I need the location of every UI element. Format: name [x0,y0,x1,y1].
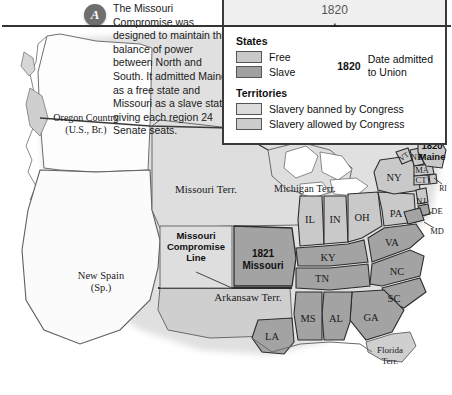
state-al [322,292,352,340]
legend-header: 1820 ★ [222,0,447,27]
legend-row-banned: Slavery banned by Congress [236,103,435,115]
legend-swatch-slave [236,66,262,78]
legend-date-key: 1820 Date admitted to Union [337,53,433,78]
leader-md [424,222,434,228]
legend-label-allowed: Slavery allowed by Congress [269,118,404,130]
state-il [298,196,324,246]
state-ct [414,175,429,185]
state-nj [416,188,428,204]
map-legend: 1820 ★ States Free Slave Territories Sla… [222,0,447,145]
legend-states-heading: States [236,35,435,47]
legend-date-note: Date admitted to Union [368,53,433,78]
legend-date-year: 1820 [337,60,360,72]
legend-swatch-allowed [236,118,262,130]
state-ms [294,292,322,340]
legend-label-banned: Slavery banned by Congress [269,103,404,115]
map-figure: Oregon Country (U.S., Br.) New Spain (Sp… [0,0,452,395]
state-in [324,196,348,244]
legend-label-slave: Slave [269,66,295,78]
annotation-text: The Missouri Compromise was designed to … [113,2,232,138]
timeline-year: 1820 [224,3,445,17]
legend-swatch-banned [236,103,262,115]
legend-swatch-free [236,51,262,63]
annotation-callout: A The Missouri Compromise was designed t… [84,2,232,138]
legend-label-free: Free [269,51,291,63]
annotation-marker-a: A [84,4,106,26]
legend-body: States Free Slave Territories Slavery ba… [222,27,447,145]
legend-territories-heading: Territories [236,87,435,99]
legend-row-allowed: Slavery allowed by Congress [236,118,435,130]
state-tn [296,264,370,290]
region-unorganized-mid [160,226,232,288]
state-missouri [234,226,296,286]
